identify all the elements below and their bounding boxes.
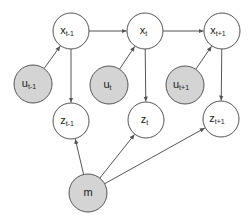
node-x_t: xt [127, 13, 163, 49]
edge-x_t+1-to-z_t+1 [221, 49, 222, 101]
edge-m-to-z_t+1 [105, 128, 205, 184]
node-m: m [69, 174, 107, 212]
node-subscript: t [110, 84, 112, 91]
node-z_t+1: zt+1 [203, 101, 239, 137]
node-u_t+1: ut+1 [166, 66, 204, 104]
node-subscript: t-1 [66, 30, 74, 37]
node-z_t-1: zt-1 [53, 103, 89, 139]
edge-u_t-1-to-x_t-1 [44, 46, 60, 69]
node-label: m [83, 186, 92, 198]
edge-m-to-z_t-1 [75, 139, 83, 175]
graphical-model-diagram: xt-1xtxt+1ut-1utut+1zt-1ztzt+1m [0, 0, 252, 224]
node-subscript: t+1 [179, 84, 189, 91]
edge-u_t-to-x_t [120, 46, 135, 69]
node-subscript: t+1 [215, 118, 225, 125]
edge-m-to-z_t [100, 134, 135, 178]
node-subscript: t-1 [28, 83, 36, 90]
edge-u_t+1-to-x_t+1 [196, 46, 212, 69]
node-subscript: t [146, 119, 148, 126]
node-u_t-1: ut-1 [14, 65, 52, 103]
edge-x_t-to-z_t [145, 49, 146, 102]
node-z_t: zt [128, 102, 164, 138]
node-u_t: ut [90, 66, 128, 104]
node-subscript: t+1 [216, 30, 226, 37]
node-subscript: t [145, 30, 147, 37]
node-x_t+1: xt+1 [204, 13, 240, 49]
node-x_t-1: xt-1 [53, 13, 89, 49]
node-subscript: t-1 [66, 120, 74, 127]
nodes: xt-1xtxt+1ut-1utut+1zt-1ztzt+1m [14, 13, 240, 212]
